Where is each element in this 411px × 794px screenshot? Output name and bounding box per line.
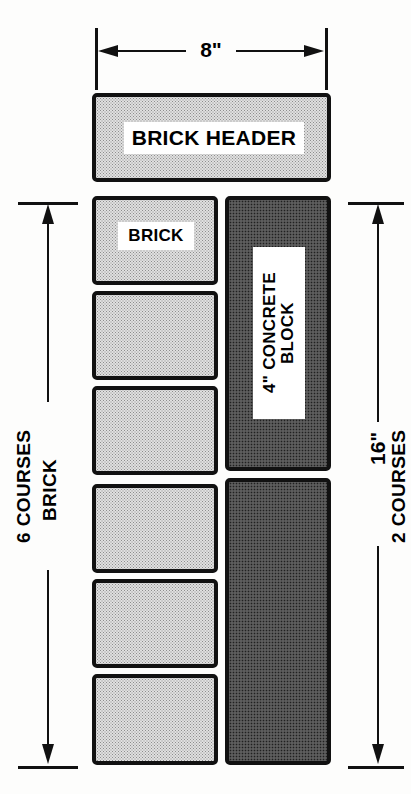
brick-course-2 [92, 291, 218, 380]
left-dimension-arrow-down [42, 744, 54, 764]
left-dimension-line-upper-segment [47, 222, 49, 402]
concrete-block-course-2 [225, 478, 331, 765]
right-dimension-arrow-down [372, 744, 384, 764]
brick-course-5 [92, 579, 218, 668]
left-dimension-extension-line-bottom [18, 766, 78, 769]
concrete-block-label-plate: 4" CONCRETE BLOCK [253, 247, 305, 419]
right-dimension-line-upper-segment [377, 222, 379, 422]
top-dimension-line-right-segment [236, 50, 306, 52]
left-dimension-arrow-up [42, 204, 54, 224]
right-dimension-label-courses: 2 COURSES [388, 402, 411, 570]
right-dimension-extension-line-bottom [348, 766, 404, 769]
left-dimension-line-lower-segment [47, 570, 49, 746]
top-dimension-arrow-right [304, 45, 324, 57]
left-dimension-label-brick: BRICK [39, 438, 63, 542]
brick-course-4 [92, 484, 218, 573]
top-dimension-arrow-left [98, 45, 118, 57]
right-dimension-arrow-up [372, 204, 384, 224]
left-dimension-label-courses: 6 COURSES [13, 402, 37, 570]
brick-header-label-plate: BRICK HEADER [124, 122, 304, 154]
top-dimension-extension-line-right [325, 28, 328, 90]
right-dimension-label-measure: 16" [366, 424, 390, 472]
masonry-wall-section-diagram: 8" BRICK HEADER 6 COURSES BRICK BRICK 4"… [0, 0, 411, 794]
right-dimension-line-lower-segment [377, 546, 379, 746]
top-dimension-label: 8" [190, 38, 232, 62]
brick-course-6 [92, 674, 218, 765]
brick-label-plate: BRICK [118, 222, 194, 250]
top-dimension-line-left-segment [116, 50, 186, 52]
top-dimension-extension-line-left [95, 28, 98, 90]
brick-course-3 [92, 386, 218, 475]
